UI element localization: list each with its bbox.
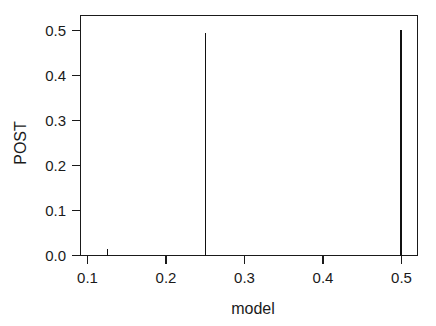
x-axis-title: model: [231, 300, 275, 317]
x-tick-label-2: 0.3: [234, 269, 255, 286]
y-tick-label-2: 0.2: [45, 157, 66, 174]
y-tick-label-4: 0.4: [45, 67, 66, 84]
y-axis-tick-labels: 0.0 0.1 0.2 0.3 0.4 0.5: [45, 22, 66, 264]
x-axis-tick-labels: 0.1 0.2 0.3 0.4 0.5: [77, 269, 412, 286]
y-tick-label-0: 0.0: [45, 247, 66, 264]
x-tick-label-3: 0.4: [313, 269, 334, 286]
y-axis-ticks: [72, 31, 80, 256]
x-tick-label-1: 0.2: [156, 269, 177, 286]
spike-plot-svg: 0.0 0.1 0.2 0.3 0.4 0.5 0.1 0.2 0.3 0.4 …: [0, 0, 436, 326]
y-axis-title: POST: [12, 121, 29, 165]
y-tick-label-3: 0.3: [45, 112, 66, 129]
y-tick-label-5: 0.5: [45, 22, 66, 39]
x-axis-ticks: [88, 256, 402, 264]
y-tick-label-1: 0.1: [45, 202, 66, 219]
x-tick-label-4: 0.5: [391, 269, 412, 286]
chart-figure: 0.0 0.1 0.2 0.3 0.4 0.5 0.1 0.2 0.3 0.4 …: [0, 0, 436, 326]
x-tick-label-0: 0.1: [77, 269, 98, 286]
plot-panel: [80, 15, 418, 256]
